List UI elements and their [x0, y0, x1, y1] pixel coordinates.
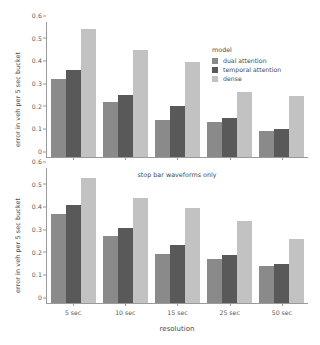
legend-label: dense	[223, 75, 242, 82]
y-tick-label: 0.3	[32, 226, 46, 233]
bar	[103, 236, 118, 303]
bar	[133, 50, 148, 157]
bar	[155, 120, 170, 157]
bar	[66, 205, 81, 303]
bar	[103, 102, 118, 157]
y-tick-label: 0.5	[32, 180, 46, 187]
bar	[51, 214, 66, 303]
bar-group: 5 sec	[51, 168, 96, 303]
x-tick-label: 50 sec	[272, 309, 292, 316]
bar-group	[259, 22, 304, 157]
x-tick-mark	[125, 157, 126, 160]
chart-panel-bottom: stop bar waveforms only error in veh per…	[0, 163, 320, 345]
bar	[222, 255, 237, 303]
bar	[185, 208, 200, 303]
x-tick-mark	[282, 157, 283, 160]
x-tick-mark	[177, 303, 178, 306]
y-axis-label-top: error in veh per 5 sec bucket	[14, 52, 22, 147]
legend-label: dual attention	[223, 57, 267, 64]
legend-item[interactable]: dual attention	[212, 57, 281, 64]
bar	[207, 122, 222, 157]
x-tick-label: 5 sec	[65, 309, 81, 316]
bar-group	[103, 22, 148, 157]
bar	[259, 131, 274, 157]
bar	[274, 129, 289, 157]
bar	[155, 254, 170, 303]
y-tick-label: 0	[38, 148, 46, 155]
x-axis-label: resolution	[46, 325, 308, 333]
legend-title: model	[212, 46, 281, 54]
bar	[259, 266, 274, 303]
y-tick-label: 0.2	[32, 248, 46, 255]
bar-group: 50 sec	[259, 168, 304, 303]
bar	[222, 118, 237, 157]
bar	[118, 95, 133, 157]
y-axis-label-bottom: error in veh per 5 sec bucket	[14, 198, 22, 293]
y-tick-label: 0.2	[32, 102, 46, 109]
bar	[207, 259, 222, 303]
figure: error in veh per 5 sec bucket 00.10.20.3…	[0, 0, 320, 345]
bar	[185, 62, 200, 157]
bar-group	[207, 22, 252, 157]
bar-groups-top	[47, 22, 308, 157]
x-tick-label: 25 sec	[220, 309, 240, 316]
x-tick-mark	[282, 303, 283, 306]
y-tick-label: 0.5	[32, 34, 46, 41]
bar	[170, 245, 185, 303]
bar	[51, 79, 66, 157]
bar	[237, 92, 252, 157]
legend-item[interactable]: dense	[212, 75, 281, 82]
bar-groups-bottom: 5 sec10 sec15 sec25 sec50 sec	[47, 168, 308, 303]
y-tick-label: 0.4	[32, 57, 46, 64]
y-tick-label: 0.3	[32, 80, 46, 87]
legend-entries: dual attentiontemporal attentiondense	[212, 57, 281, 82]
legend-swatch-icon	[212, 58, 218, 64]
y-tick-label: 0.6	[32, 158, 46, 165]
bar	[289, 239, 304, 303]
bar	[66, 70, 81, 157]
bar	[118, 228, 133, 303]
x-tick-mark	[73, 157, 74, 160]
legend: model dual attentiontemporal attentionde…	[212, 46, 281, 84]
x-tick-mark	[230, 157, 231, 160]
bar	[81, 178, 96, 303]
x-tick-label: 15 sec	[167, 309, 187, 316]
bar	[289, 96, 304, 157]
y-tick-label: 0.1	[32, 271, 46, 278]
x-tick-mark	[230, 303, 231, 306]
bar-group	[51, 22, 96, 157]
x-tick-mark	[125, 303, 126, 306]
bar	[170, 106, 185, 157]
x-tick-mark	[177, 157, 178, 160]
bar-group: 15 sec	[155, 168, 200, 303]
y-tick-label: 0.1	[32, 125, 46, 132]
plot-area-top: 00.10.20.30.40.50.6	[46, 22, 308, 158]
bar	[133, 198, 148, 303]
bar	[237, 221, 252, 303]
x-tick-label: 10 sec	[115, 309, 135, 316]
x-tick-mark	[73, 303, 74, 306]
y-tick-label: 0.6	[32, 12, 46, 19]
legend-label: temporal attention	[223, 66, 281, 73]
bar	[274, 264, 289, 303]
chart-panel-top: error in veh per 5 sec bucket 00.10.20.3…	[0, 0, 320, 165]
y-tick-label: 0.4	[32, 203, 46, 210]
legend-item[interactable]: temporal attention	[212, 66, 281, 73]
bar-group: 10 sec	[103, 168, 148, 303]
y-tick-label: 0	[38, 294, 46, 301]
bar-group: 25 sec	[207, 168, 252, 303]
legend-swatch-icon	[212, 76, 218, 82]
plot-area-bottom: 00.10.20.30.40.50.6 5 sec10 sec15 sec25 …	[46, 168, 308, 304]
legend-swatch-icon	[212, 67, 218, 73]
bar	[81, 29, 96, 157]
bar-group	[155, 22, 200, 157]
